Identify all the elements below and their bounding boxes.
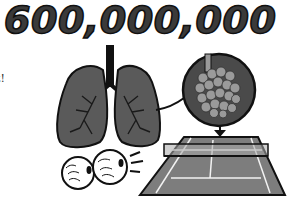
connector-line [156,98,184,110]
illustration [0,0,301,202]
lungs-icon [57,45,160,147]
down-arrow-icon [214,126,226,137]
infographic-canvas: 600,000,000 t! [0,0,301,202]
tennis-balls-icon [62,150,143,189]
alveoli-magnifier-icon [183,54,255,126]
tennis-court-icon [140,137,285,195]
